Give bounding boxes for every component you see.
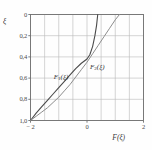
curve-label-f2-arg: (ξ) xyxy=(97,63,105,71)
curve-label-f1-arg: (ξ) xyxy=(61,73,69,81)
x-axis-label-arg: (ξ) xyxy=(117,133,125,142)
y-tick-label: 0,8 xyxy=(7,95,27,102)
curve-label-f1: F1(ξ) xyxy=(54,73,68,81)
x-tick-label: 2 xyxy=(136,123,152,130)
y-tick-label: 0 xyxy=(7,11,27,18)
axis-tick-marks xyxy=(28,15,143,123)
y-tick-label: 0,2 xyxy=(7,32,27,39)
y-axis-label: ξ xyxy=(3,17,6,26)
y-tick-label: 0,6 xyxy=(7,74,27,81)
curve-lines xyxy=(31,15,120,121)
figure-cdf-plot: 1,0 0,8 0,6 0,4 0,2 0 ξ − 2 0 2 F(ξ) F1(… xyxy=(0,0,152,150)
x-tick-label: − 2 xyxy=(23,123,39,130)
grid-lines xyxy=(31,15,144,121)
curve-label-f2: F2(ξ) xyxy=(90,63,104,71)
y-tick-label: 0,4 xyxy=(7,53,27,60)
x-tick-label: 0 xyxy=(79,123,95,130)
x-axis-label: F(ξ) xyxy=(112,133,125,142)
